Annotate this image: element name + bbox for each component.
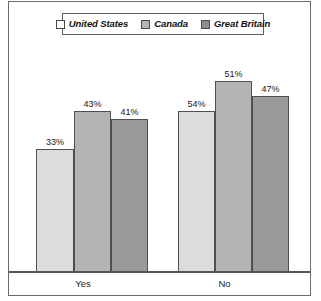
bar-value-label: 51% [215,70,252,79]
legend-swatch-canada [141,20,150,29]
legend-entry-canada[interactable]: Canada [141,19,188,29]
table-row[interactable] [178,111,215,272]
bar-group-no: 54% 51% 47% [178,40,289,272]
bar-column-yes-canada[interactable]: 43% [74,40,111,272]
legend-label-great-britain: Great Britain [214,19,270,29]
bar-column-yes-united-states[interactable]: 33% [36,40,74,272]
bar-group-yes: 33% 43% 41% [36,40,148,272]
x-axis-baseline [9,271,310,273]
bar-column-no-canada[interactable]: 51% [215,40,252,272]
x-axis-label-no: No [169,279,280,289]
legend-entry-united-states[interactable]: United States [56,19,128,29]
chart-legend: United States Canada Great Britain [62,13,264,35]
legend-entry-great-britain[interactable]: Great Britain [201,19,270,29]
legend-swatch-great-britain [201,20,210,29]
table-row[interactable] [74,111,111,272]
legend-label-united-states: United States [69,19,128,29]
bar-value-label: 43% [74,100,111,109]
bar-value-label: 41% [111,108,148,117]
bar-value-label: 33% [36,138,74,147]
bar-chart-figure: United States Canada Great Britain 33% 4… [0,0,321,301]
x-axis-label-yes: Yes [27,279,139,289]
bar-value-label: 47% [252,85,289,94]
table-row[interactable] [111,119,148,272]
bar-value-label: 54% [178,100,215,109]
legend-swatch-united-states [56,20,65,29]
table-row[interactable] [36,149,74,272]
bar-column-no-great-britain[interactable]: 47% [252,40,289,272]
plot-area: 33% 43% 41% 54% 51% 47% [9,40,310,272]
bar-column-yes-great-britain[interactable]: 41% [111,40,148,272]
legend-label-canada: Canada [154,19,188,29]
table-row[interactable] [215,81,252,272]
bar-column-no-united-states[interactable]: 54% [178,40,215,272]
table-row[interactable] [252,96,289,272]
